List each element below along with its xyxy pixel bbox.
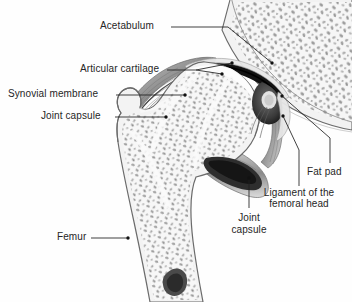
label-synovial-membrane: Synovial membrane bbox=[8, 88, 98, 100]
hip-joint-figure: Acetabulum Articular cartilage Synovial … bbox=[0, 0, 352, 302]
hip-joint-illustration bbox=[0, 0, 352, 302]
label-ligament-femoral-head-line2: femoral head bbox=[263, 198, 335, 210]
label-ligament-femoral-head-line1: Ligament of the bbox=[263, 187, 335, 199]
dot-articular-cartilage-lower bbox=[220, 72, 223, 75]
label-fat-pad: Fat pad bbox=[307, 166, 342, 178]
dot-fat-pad bbox=[280, 94, 283, 97]
dot-synovial-membrane bbox=[183, 93, 186, 96]
dot-articular-cartilage-upper bbox=[230, 61, 233, 64]
label-articular-cartilage: Articular cartilage bbox=[80, 63, 159, 75]
label-joint-capsule-lower-line1: Joint bbox=[225, 212, 273, 224]
dot-femur bbox=[126, 236, 129, 239]
dot-ligament-femoral-head bbox=[281, 114, 284, 117]
dot-joint-capsule-lower bbox=[247, 176, 250, 179]
label-joint-capsule-left: Joint capsule bbox=[41, 110, 101, 122]
label-femur: Femur bbox=[57, 231, 86, 243]
label-acetabulum: Acetabulum bbox=[100, 20, 154, 32]
dot-acetabulum bbox=[270, 61, 273, 64]
dot-joint-capsule-left bbox=[164, 115, 167, 118]
label-joint-capsule-lower-line2: capsule bbox=[225, 224, 273, 236]
